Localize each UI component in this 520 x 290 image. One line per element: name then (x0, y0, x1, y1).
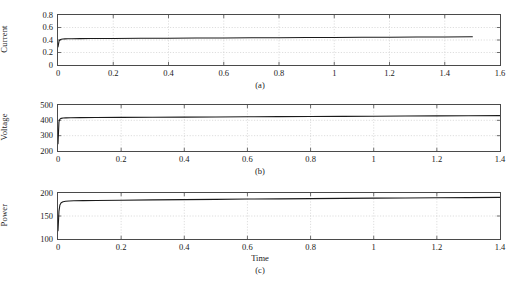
x-axis-tick-label: 0 (43, 154, 73, 164)
x-axis-tick-label: 0.8 (296, 242, 326, 252)
x-axis-tick-label: 0.6 (209, 68, 239, 78)
y-axis-tick-label: 0.4 (11, 35, 53, 45)
x-axis-tick-label: 0 (43, 242, 73, 252)
panel-caption: (a) (0, 80, 520, 90)
x-axis-tick-label: 0.6 (232, 242, 262, 252)
x-axis-tick-label: 0.6 (232, 154, 262, 164)
y-axis-tick-label: 400 (11, 115, 53, 125)
x-axis-tick-label: 1.2 (422, 154, 452, 164)
x-axis-tick-label: 1 (359, 154, 389, 164)
panel-caption: (c) (0, 265, 520, 275)
x-axis-tick-label: 1.2 (422, 242, 452, 252)
x-axis-tick-label: 0.2 (106, 154, 136, 164)
x-axis-tick-label: 0.8 (264, 68, 294, 78)
x-axis-tick-label: 1.4 (485, 242, 515, 252)
y-axis-tick-label: 300 (11, 130, 53, 140)
data-series-line (58, 197, 500, 230)
x-axis-tick-label: 1.4 (430, 68, 460, 78)
plot-canvas (58, 105, 500, 151)
y-axis-title: Power (0, 180, 9, 250)
y-axis-tick-label: 0.8 (11, 10, 53, 20)
x-axis-tick-label: 1.2 (375, 68, 405, 78)
x-axis-tick-label: 1 (359, 242, 389, 252)
plot-area-a (57, 14, 501, 66)
plot-canvas (58, 193, 500, 239)
x-axis-tick-label: 0.4 (169, 154, 199, 164)
x-axis-tick-label: 0.2 (106, 242, 136, 252)
x-axis-tick-label: 0.2 (98, 68, 128, 78)
data-series-line (58, 116, 500, 144)
x-axis-tick-label: 0.8 (296, 154, 326, 164)
x-axis-tick-label: 1.4 (485, 154, 515, 164)
x-axis-title: Time (0, 253, 520, 263)
x-axis-tick-label: 0.4 (154, 68, 184, 78)
y-axis-tick-label: 200 (11, 188, 53, 198)
plot-area-c (57, 192, 501, 240)
plot-area-b (57, 104, 501, 152)
figure-container: 00.20.40.60.800.20.40.60.811.21.41.6Curr… (0, 0, 520, 290)
y-axis-title: Voltage (0, 92, 9, 162)
x-axis-tick-label: 1 (319, 68, 349, 78)
x-axis-tick-label: 1.6 (485, 68, 515, 78)
y-axis-tick-label: 500 (11, 100, 53, 110)
y-axis-tick-label: 150 (11, 211, 53, 221)
y-axis-tick-label: 0.6 (11, 22, 53, 32)
x-axis-tick-label: 0 (43, 68, 73, 78)
data-series-line (58, 37, 472, 47)
y-axis-title: Current (0, 4, 9, 74)
y-axis-tick-label: 0.2 (11, 47, 53, 57)
plot-canvas (58, 15, 500, 65)
panel-caption: (b) (0, 166, 520, 176)
x-axis-tick-label: 0.4 (169, 242, 199, 252)
